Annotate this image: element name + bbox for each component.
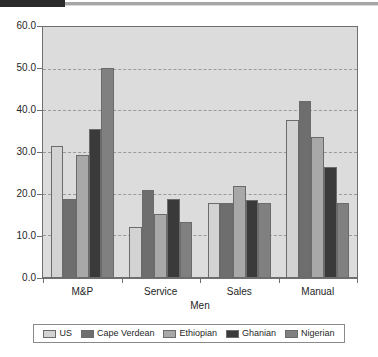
y-axis-tick-label: 20.0: [0, 189, 36, 199]
y-axis-tick-label: 40.0: [0, 105, 36, 115]
legend-item[interactable]: Cape Verdean: [81, 329, 155, 338]
bar: [154, 214, 167, 278]
bar: [180, 222, 193, 278]
x-axis-category-label: Sales: [200, 286, 279, 298]
bar: [258, 203, 271, 278]
bar-chart-figure: 60.050.040.030.020.010.00.0 M&PServiceSa…: [0, 7, 378, 357]
y-axis-tick-label: 0.0: [0, 273, 36, 283]
x-axis-title: Men: [42, 300, 358, 311]
x-axis-tick: [200, 278, 201, 283]
bar: [246, 200, 259, 278]
legend-item[interactable]: Nigerian: [285, 329, 335, 338]
bar: [76, 155, 89, 278]
legend-swatch: [43, 330, 56, 338]
legend-swatch: [285, 330, 298, 338]
bar: [167, 199, 180, 278]
bar: [89, 129, 102, 278]
chart-legend: USCape VerdeanEthiopianGhanianNigerian: [33, 324, 345, 343]
header-rule-hairline: [65, 5, 378, 6]
x-axis-category-label: Manual: [279, 286, 358, 298]
bar: [129, 227, 142, 278]
x-axis-category-label: M&P: [43, 286, 122, 298]
header-rule-dark: [0, 0, 65, 7]
bar: [324, 167, 337, 278]
x-axis-tick: [122, 278, 123, 283]
x-axis-category-label: Service: [122, 286, 201, 298]
bar: [299, 101, 312, 278]
bar: [220, 203, 233, 278]
bar: [286, 120, 299, 278]
bar: [51, 146, 64, 278]
legend-label: Ghanian: [242, 329, 276, 338]
bar: [63, 199, 76, 278]
legend-item[interactable]: Ethiopian: [163, 329, 217, 338]
y-axis-tick-label: 10.0: [0, 231, 36, 241]
legend-item[interactable]: Ghanian: [226, 329, 276, 338]
x-axis-tick: [279, 278, 280, 283]
legend-swatch: [226, 330, 239, 338]
legend-swatch: [81, 330, 94, 338]
legend-swatch: [163, 330, 176, 338]
bar: [142, 190, 155, 278]
legend-label: Cape Verdean: [97, 329, 155, 338]
y-axis-tick-label: 60.0: [0, 21, 36, 31]
legend-label: Ethiopian: [179, 329, 217, 338]
x-axis-tick: [357, 278, 358, 283]
bar: [233, 186, 246, 278]
legend-label: US: [59, 329, 72, 338]
legend-label: Nigerian: [301, 329, 335, 338]
bar: [101, 68, 114, 278]
bar: [208, 203, 221, 278]
bar: [337, 203, 350, 278]
y-axis-tick-labels: 60.050.040.030.020.010.00.0: [0, 26, 36, 278]
legend-item[interactable]: US: [43, 329, 72, 338]
y-axis-tick-label: 50.0: [0, 63, 36, 73]
bar-series-layer: [43, 27, 357, 278]
x-axis-tick: [43, 278, 44, 283]
bar: [311, 137, 324, 278]
y-axis-tick-label: 30.0: [0, 147, 36, 157]
